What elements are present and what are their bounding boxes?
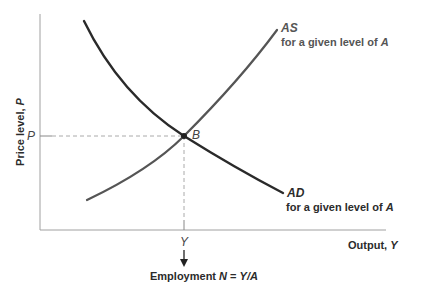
arrow-down-icon [180,259,188,267]
as-label: AS [281,22,298,35]
ad-caption: for a given level of A [286,201,394,214]
as-caption: for a given level of A [281,36,389,49]
y-axis-label: Price level, P [14,82,26,182]
ad-label: AD [287,187,304,200]
x-axis-label: Output, Y [348,239,398,252]
equilibrium-point [181,133,187,139]
equilibrium-label: B [192,129,200,142]
employment-label: Employment N = Y/A [150,270,258,283]
y-tick-label: Y [180,236,188,249]
p-tick-label: P [27,130,35,143]
